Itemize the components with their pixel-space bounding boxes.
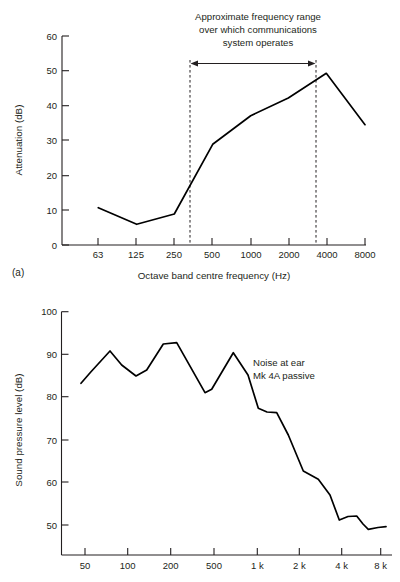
chart-b-ytick-70: 70	[46, 435, 57, 446]
annotation-b-line-2: Mk 4A passive	[253, 370, 315, 381]
noise-at-ear-annotation: Noise at ear Mk 4A passive	[253, 357, 315, 381]
range-double-arrow	[191, 61, 316, 67]
chart-b-ytick-60: 60	[46, 477, 57, 488]
chart-b-xtick-200: 200	[163, 560, 179, 571]
chart-b-y-axis-title: Sound pressure level (dB)	[13, 373, 24, 486]
chart-a-ytick-20: 20	[46, 170, 57, 181]
chart-a-y-ticks	[62, 36, 69, 245]
chart-a-x-ticks	[98, 238, 365, 245]
chart-b-x-tick-labels: 50 100 200 500 1 k 2 k 4 k 8 k	[80, 560, 388, 571]
attenuation-chart: 60 50 40 30 20 10 0 63 125 250 500 1000	[0, 0, 400, 292]
annotation-b-line-1: Noise at ear	[253, 357, 306, 368]
chart-a-xtick-500: 500	[204, 249, 220, 260]
chart-b-xtick-500: 500	[206, 560, 222, 571]
figure-container: 60 50 40 30 20 10 0 63 125 250 500 1000	[0, 0, 400, 582]
chart-a-ytick-0: 0	[52, 240, 57, 251]
annotation-a-line-2: over which communications	[199, 24, 317, 35]
chart-a-x-tick-labels: 63 125 250 500 1000 2000 4000 8000	[93, 249, 376, 260]
chart-b-xtick-50: 50	[80, 560, 91, 571]
chart-b-xtick-4k: 4 k	[335, 560, 348, 571]
chart-a-y-axis-title: Attenuation (dB)	[13, 105, 24, 176]
chart-a-ytick-40: 40	[46, 100, 57, 111]
chart-b-x-ticks	[85, 548, 381, 555]
chart-a-xtick-2000: 2000	[278, 249, 299, 260]
chart-a-y-tick-labels: 60 50 40 30 20 10 0	[46, 31, 57, 251]
frequency-range-annotation: Approximate frequency range over which c…	[195, 11, 321, 48]
attenuation-data-line	[98, 73, 365, 224]
chart-b-xtick-8k: 8 k	[374, 560, 387, 571]
chart-a-xtick-4000: 4000	[316, 249, 337, 260]
annotation-a-line-3: system operates	[223, 37, 294, 48]
chart-a-xtick-125: 125	[128, 249, 144, 260]
chart-b-y-tick-labels: 100 90 80 70 60 50	[41, 306, 57, 530]
panel-a-label: (a)	[12, 267, 24, 278]
chart-a-ytick-10: 10	[46, 205, 57, 216]
chart-b-ytick-50: 50	[46, 520, 57, 531]
chart-a-x-axis-title: Octave band centre frequency (Hz)	[138, 270, 290, 281]
chart-a-xtick-250: 250	[166, 249, 182, 260]
chart-b-xtick-2k: 2 k	[293, 560, 306, 571]
chart-b-ytick-90: 90	[46, 349, 57, 360]
chart-a-xtick-63: 63	[93, 249, 104, 260]
chart-a-ytick-60: 60	[46, 31, 57, 42]
chart-b-ytick-100: 100	[41, 306, 57, 317]
annotation-a-line-1: Approximate frequency range	[195, 11, 321, 22]
chart-a-ytick-30: 30	[46, 135, 57, 146]
sound-pressure-data-line	[81, 343, 386, 530]
chart-b-xtick-100: 100	[120, 560, 136, 571]
sound-pressure-chart: 100 90 80 70 60 50 50 100 200 500 1 k 2 …	[0, 290, 400, 582]
chart-b-xtick-1k: 1 k	[251, 560, 264, 571]
chart-a-xtick-8000: 8000	[354, 249, 375, 260]
chart-a-xtick-1000: 1000	[240, 249, 261, 260]
chart-b-y-ticks	[62, 312, 69, 525]
chart-b-ytick-80: 80	[46, 391, 57, 402]
chart-a-ytick-50: 50	[46, 65, 57, 76]
